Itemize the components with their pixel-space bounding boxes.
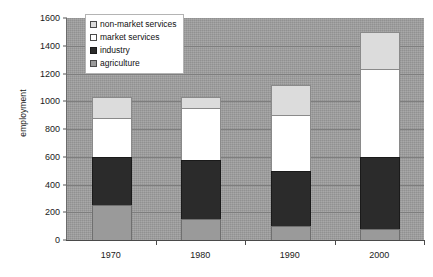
- bar-group-2000[interactable]: [360, 32, 400, 240]
- x-tick-label-1990: 1990: [280, 250, 300, 260]
- legend-swatch-agri-icon: [90, 60, 97, 67]
- bar-segment-2000-agriculture[interactable]: [360, 229, 400, 240]
- bar-segment-1980-agriculture[interactable]: [181, 219, 221, 240]
- y-tick-label-1400: 1400: [40, 41, 60, 50]
- legend-swatch-industry-icon: [90, 47, 97, 54]
- bar-segment-1970-agriculture[interactable]: [92, 205, 132, 240]
- y-axis-tick-labels: 02004006008001000120014001600: [18, 0, 64, 277]
- bar-segment-2000-market-services[interactable]: [360, 69, 400, 156]
- x-tick-label-1970: 1970: [101, 250, 121, 260]
- legend-swatch-market-icon: [90, 34, 97, 41]
- bar-segment-1970-non-market-services[interactable]: [92, 97, 132, 118]
- bar-segment-1990-market-services[interactable]: [271, 115, 311, 171]
- x-tick-mark-1970: [156, 240, 157, 245]
- bar-group-1980[interactable]: [181, 97, 221, 240]
- stacked-bar-chart: employment 02004006008001000120014001600…: [0, 0, 433, 277]
- legend-item-agri[interactable]: agriculture: [90, 57, 177, 70]
- x-tick-mark-1990: [335, 240, 336, 245]
- bar-segment-1970-industry[interactable]: [92, 157, 132, 206]
- y-tick-label-1200: 1200: [40, 69, 60, 78]
- bar-group-1990[interactable]: [271, 85, 311, 240]
- bar-segment-1980-industry[interactable]: [181, 160, 221, 220]
- legend-item-market[interactable]: market services: [90, 31, 177, 44]
- y-tick-label-1000: 1000: [40, 97, 60, 106]
- x-tick-label-2000: 2000: [369, 250, 389, 260]
- legend-label: market services: [100, 33, 160, 42]
- bar-segment-1980-market-services[interactable]: [181, 108, 221, 159]
- bar-segment-1990-industry[interactable]: [271, 171, 311, 227]
- x-tick-mark-1980: [245, 240, 246, 245]
- bar-segment-1970-market-services[interactable]: [92, 118, 132, 157]
- y-tick-label-200: 200: [45, 208, 60, 217]
- legend-label: agriculture: [100, 59, 140, 68]
- legend-item-nonmarket[interactable]: non-market services: [90, 18, 177, 31]
- bar-segment-2000-non-market-services[interactable]: [360, 32, 400, 69]
- legend-label: industry: [100, 46, 130, 55]
- bar-segment-1980-non-market-services[interactable]: [181, 97, 221, 108]
- bar-segment-1990-agriculture[interactable]: [271, 226, 311, 240]
- bar-segment-1990-non-market-services[interactable]: [271, 85, 311, 116]
- y-tick-label-400: 400: [45, 180, 60, 189]
- legend-item-industry[interactable]: industry: [90, 44, 177, 57]
- x-tick-mark-2000: [424, 240, 425, 245]
- bar-group-1970[interactable]: [92, 97, 132, 240]
- y-tick-label-1600: 1600: [40, 14, 60, 23]
- chart-legend: non-market servicesmarket servicesindust…: [85, 14, 184, 74]
- bar-segment-2000-industry[interactable]: [360, 157, 400, 229]
- y-tick-label-800: 800: [45, 125, 60, 134]
- legend-swatch-nonmarket-icon: [90, 21, 97, 28]
- y-tick-label-600: 600: [45, 152, 60, 161]
- legend-label: non-market services: [100, 20, 177, 29]
- y-tick-label-0: 0: [55, 236, 60, 245]
- x-tick-label-1980: 1980: [190, 250, 210, 260]
